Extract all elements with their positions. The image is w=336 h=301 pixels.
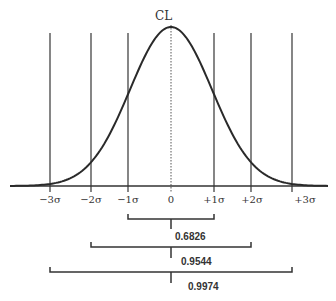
bracket-1sigma <box>128 214 214 219</box>
axis-label: +1σ <box>203 194 225 205</box>
axis-label: −3σ <box>39 194 61 205</box>
axis-label: −2σ <box>80 194 102 205</box>
probability-labels: 0.6826 0.9544 0.9974 <box>175 231 219 292</box>
axis-label: +2σ <box>241 194 263 205</box>
center-label: CL <box>155 9 172 23</box>
probability-1sigma: 0.6826 <box>175 231 206 242</box>
bracket-2sigma <box>91 242 251 247</box>
axis-label: 0 <box>168 194 174 205</box>
normal-distribution-diagram: CL −3σ −2σ −1σ 0 +1σ +2σ +3σ 0.6826 0.95… <box>0 0 336 301</box>
axis-label: +3σ <box>294 194 316 205</box>
brackets <box>50 214 292 283</box>
bell-curve <box>10 27 328 186</box>
bracket-3sigma <box>50 267 292 272</box>
probability-2sigma: 0.9544 <box>181 256 212 267</box>
axis-label: −1σ <box>117 194 139 205</box>
probability-3sigma: 0.9974 <box>188 281 219 292</box>
axis-labels: −3σ −2σ −1σ 0 +1σ +2σ +3σ <box>39 194 316 205</box>
